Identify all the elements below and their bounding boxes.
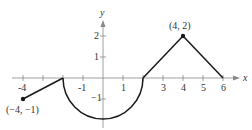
svg-text:1: 1: [121, 82, 126, 93]
x-tick-labels: -4 -1 1 3 4 5 6: [18, 82, 226, 93]
svg-text:2: 2: [94, 30, 99, 41]
svg-text:6: 6: [221, 82, 226, 93]
point-neg4-neg1: [21, 97, 25, 101]
svg-text:3: 3: [161, 82, 166, 93]
point-4-2: [181, 34, 185, 38]
segment-line-3: [183, 36, 223, 78]
svg-text:4: 4: [181, 82, 186, 93]
svg-text:5: 5: [201, 82, 206, 93]
function-graph: x y -4 -1 1 3 4 5 6 −1 1 2: [0, 0, 252, 130]
segment-line-2: [143, 36, 183, 78]
y-tick-labels: −1 1 2: [91, 30, 102, 103]
segment-line-1: [23, 78, 63, 99]
svg-text:−1: −1: [91, 92, 102, 103]
x-axis-label: x: [242, 72, 248, 83]
y-axis-arrow-icon: [101, 20, 106, 27]
svg-text:-4: -4: [18, 82, 26, 93]
point-label-4-2: (4, 2): [169, 20, 191, 32]
point-label-neg4-neg1: (−4, −1): [6, 104, 39, 116]
svg-text:-1: -1: [78, 82, 86, 93]
y-axis-label: y: [99, 7, 105, 18]
x-axis-arrow-icon: [233, 76, 240, 81]
svg-text:1: 1: [94, 51, 99, 62]
